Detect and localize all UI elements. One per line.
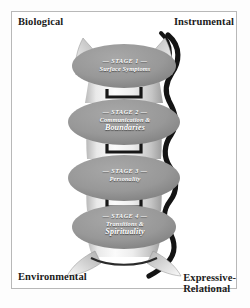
base-arc [91,258,157,265]
corner-label-expressive-relational: Expressive- Relational [183,272,236,294]
stage-disc-1[interactable] [72,44,176,88]
stage-disc-4[interactable] [72,205,176,249]
corner-label-environmental: Environmental [18,271,87,282]
corner-label-biological: Biological [18,16,63,27]
stage-disc-2[interactable] [68,99,180,145]
diagram-root: — STAGE 1 — Surface Symptoms — STAGE 2 —… [0,0,250,308]
corner-label-instrumental: Instrumental [174,16,234,27]
stage-column-figure [11,11,237,289]
stage-disc-3[interactable] [68,155,180,201]
